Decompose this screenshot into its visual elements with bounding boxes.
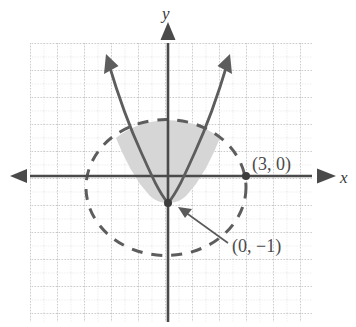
x-axis-label: x	[339, 168, 348, 187]
x-axis-left-arrow	[10, 169, 27, 183]
point-3-0-label: (3, 0)	[252, 154, 291, 175]
y-axis-label: y	[160, 4, 170, 23]
y-axis-up-arrow	[161, 22, 176, 40]
point-0-neg1	[164, 199, 172, 207]
point-0-neg1-label: (0, −1)	[232, 236, 281, 257]
x-axis-right-arrow	[317, 169, 336, 184]
point-3-0	[242, 172, 250, 180]
coordinate-plane-figure: x y (3, 0) (0, −1)	[0, 0, 356, 327]
figure-container: x y (3, 0) (0, −1)	[0, 0, 356, 327]
